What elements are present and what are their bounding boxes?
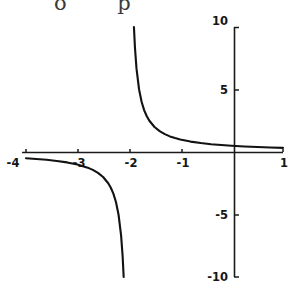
curve-left-branch (26, 158, 124, 277)
y-tick-label--5: -5 (215, 208, 228, 222)
x-tick-label-1: 1 (280, 156, 288, 170)
curve-right-branch (134, 27, 283, 148)
x-tick-label--1: -1 (177, 156, 190, 170)
y-tick-label-5: 5 (220, 83, 228, 97)
plot-figure: o p -4 -3 -2 -1 1 10 5 -5 -10 (0, 0, 299, 292)
y-tick-label--10: -10 (207, 270, 228, 284)
function-plot: -4 -3 -2 -1 1 10 5 -5 -10 (0, 0, 299, 292)
x-tick-label--2: -2 (125, 156, 138, 170)
y-tick-label-10: 10 (212, 14, 228, 28)
x-tick-label--4: -4 (7, 156, 20, 170)
cropped-text-fragment: o p (54, 0, 153, 15)
